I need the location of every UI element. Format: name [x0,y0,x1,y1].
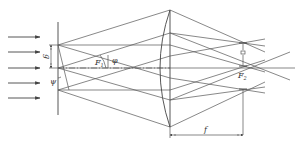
label-f: f [203,125,209,134]
label-g: g [43,54,52,59]
focused-rays [170,10,295,127]
label-f2: F2 [237,71,247,81]
convex-lens [160,10,170,127]
focal-length-dimension: f [170,125,243,138]
incident-beam-arrows [8,37,40,98]
label-f1: F1 [94,58,104,68]
diffracted-rays [58,10,170,127]
optics-diagram: g ψ φ F1 [0,0,301,142]
label-phi: φ [112,56,118,65]
grating-period-dimension: g [43,45,58,68]
label-psi: ψ [50,77,57,86]
